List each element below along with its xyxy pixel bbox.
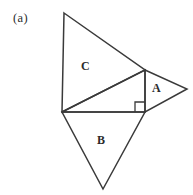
geometry-diagram bbox=[0, 0, 193, 195]
figure-panel: (a) C A B bbox=[0, 0, 193, 195]
region-label-b: B bbox=[97, 134, 105, 146]
panel-tag: (a) bbox=[13, 12, 28, 25]
triangle-c bbox=[62, 13, 145, 112]
right-angle-marker-icon bbox=[135, 102, 145, 112]
region-label-c: C bbox=[81, 60, 90, 72]
central-right-triangle bbox=[62, 70, 145, 112]
region-label-a: A bbox=[152, 82, 161, 94]
triangle-b bbox=[62, 112, 145, 189]
